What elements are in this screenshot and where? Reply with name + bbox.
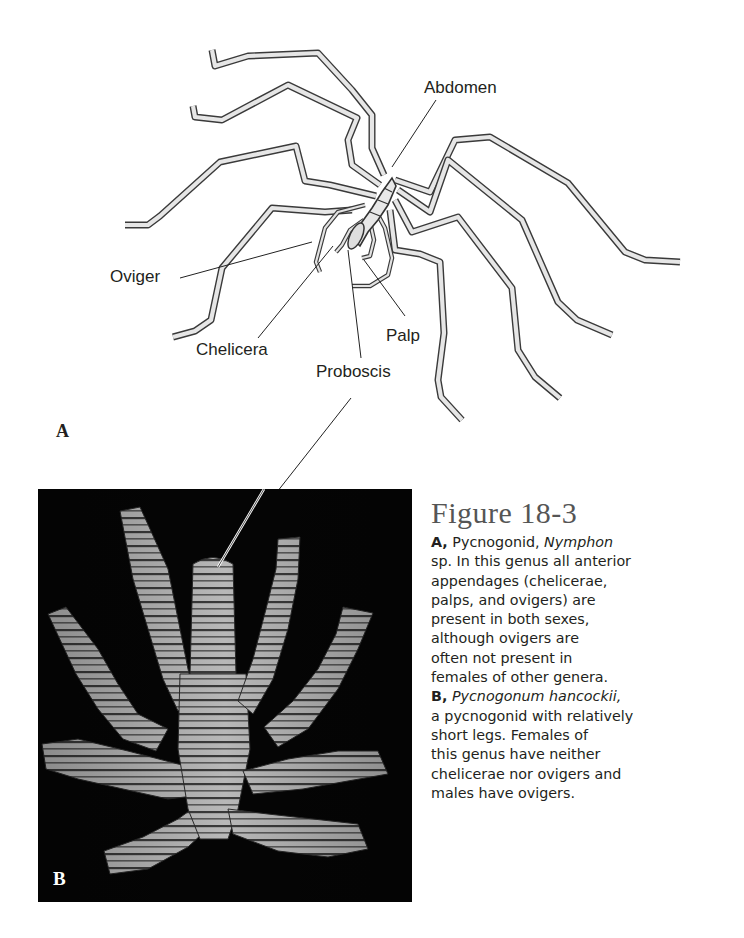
caption-line: A, Pycnogonid, Nymphon <box>431 533 741 552</box>
label-chelicera: Chelicera <box>196 340 268 360</box>
caption-italic-species: Pycnogonum hancockii, <box>447 688 621 704</box>
caption-line: a pycnogonid with relatively <box>431 707 741 726</box>
nymphon-illustration: .leg { fill: none; stroke: #3a3a3a; stro… <box>0 0 744 500</box>
figure-panel-a-drawing: .leg { fill: none; stroke: #3a3a3a; stro… <box>0 0 744 500</box>
caption-text: Pycnogonid, <box>448 534 544 550</box>
figure-caption: Figure 18-3 A, Pycnogonid, Nymphon sp. I… <box>431 496 741 803</box>
caption-body: A, Pycnogonid, Nymphon sp. In this genus… <box>431 533 741 803</box>
caption-line: often not present in <box>431 649 741 668</box>
leg-right-4 <box>390 210 462 420</box>
figure-number: Figure 18-3 <box>431 496 741 530</box>
figure-panel-b-photo: B <box>38 489 412 902</box>
caption-line: palps, and ovigers) are <box>431 591 741 610</box>
caption-line: chelicerae nor ovigers and <box>431 765 741 784</box>
leg-left-2 <box>193 85 380 185</box>
caption-line: males have ovigers. <box>431 784 741 803</box>
panel-a-letter: A <box>56 421 69 442</box>
panel-b-letter: B <box>53 868 66 890</box>
caption-line: short legs. Females of <box>431 726 741 745</box>
leader-oviger <box>180 242 312 278</box>
leg-right-3 <box>395 200 560 398</box>
leader-proboscis-photo <box>218 398 351 500</box>
pycnogonum-photo <box>38 489 412 902</box>
caption-line: females of other genera. <box>431 668 741 687</box>
caption-lead-b: B, <box>431 688 447 704</box>
caption-lead-a: A, <box>431 534 448 550</box>
label-abdomen: Abdomen <box>424 78 497 98</box>
leader-chelicera <box>258 246 333 338</box>
caption-line: present in both sexes, <box>431 610 741 629</box>
caption-line: although ovigers are <box>431 629 741 648</box>
caption-line: this genus have neither <box>431 745 741 764</box>
caption-line: appendages (chelicerae, <box>431 572 741 591</box>
caption-line: sp. In this genus all anterior <box>431 552 741 571</box>
label-proboscis: Proboscis <box>316 362 391 382</box>
leader-abdomen <box>392 100 436 167</box>
label-oviger: Oviger <box>110 267 160 287</box>
caption-italic-genus: Nymphon <box>544 534 613 550</box>
leader-proboscis <box>348 250 361 358</box>
caption-line: B, Pycnogonum hancockii, <box>431 687 741 706</box>
label-palp: Palp <box>386 326 420 346</box>
